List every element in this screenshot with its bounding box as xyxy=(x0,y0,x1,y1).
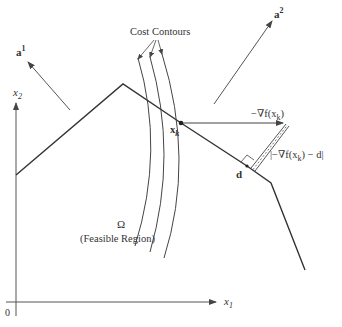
contour-2 xyxy=(150,57,164,252)
residual-label: |−∇f(xk) − d| xyxy=(270,148,324,163)
axes xyxy=(6,103,216,316)
feasible-region-diagram xyxy=(0,0,342,327)
a2-normal-arrow xyxy=(214,21,272,104)
origin-label: 0 xyxy=(5,307,10,318)
feasible-region-label: (Feasible Region) xyxy=(80,233,155,244)
x2-axis-label: x2 xyxy=(13,86,22,101)
a1-normal-arrow xyxy=(28,62,70,110)
xk-point xyxy=(179,121,184,126)
a2-label: a2 xyxy=(274,6,284,20)
d-label: d xyxy=(236,168,242,180)
d-point xyxy=(245,164,248,167)
neg-gradient-label: −∇f(xk) xyxy=(251,107,284,122)
xk-label: xk xyxy=(170,124,179,138)
cost-contours-label: Cost Contours xyxy=(130,26,190,37)
contour-1 xyxy=(135,58,151,246)
omega-label: Ω xyxy=(117,218,125,230)
x1-axis-label: x1 xyxy=(224,295,233,310)
a1-label: a1 xyxy=(16,44,26,58)
cost-contours xyxy=(135,54,179,258)
contour-pointer-arrows xyxy=(138,40,162,59)
contour-3 xyxy=(162,54,179,258)
right-angle-marker xyxy=(241,155,254,162)
